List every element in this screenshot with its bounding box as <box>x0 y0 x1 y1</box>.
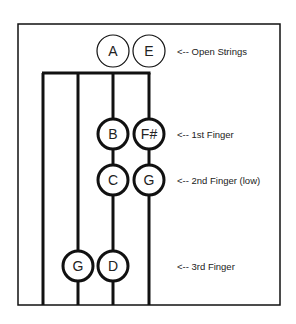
row-label-1st-finger: <-- 1st Finger <box>177 129 234 140</box>
note-label: D <box>108 258 118 274</box>
row-2nd-finger: C G <-- 2nd Finger (low) <box>98 165 260 195</box>
strings <box>43 73 149 305</box>
violin-fingering-diagram: A E <-- Open Strings B F# <-- 1st Finger… <box>0 0 296 324</box>
row-open-strings: A E <-- Open Strings <box>97 35 247 67</box>
row-1st-finger: B F# <-- 1st Finger <box>98 119 234 149</box>
note-label: F# <box>141 126 158 142</box>
row-label-3rd-finger: <-- 3rd Finger <box>177 261 235 272</box>
note-label: C <box>108 172 118 188</box>
note-label: G <box>144 172 155 188</box>
note-label: A <box>108 43 118 59</box>
row-label-2nd-finger: <-- 2nd Finger (low) <box>177 175 260 186</box>
note-label: B <box>108 126 117 142</box>
note-label: G <box>73 258 84 274</box>
note-label: E <box>144 43 153 59</box>
row-label-open-strings: <-- Open Strings <box>177 46 247 57</box>
